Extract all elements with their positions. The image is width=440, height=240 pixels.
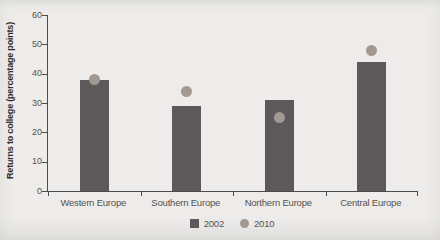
y-tick-label-10: 10 xyxy=(16,157,42,166)
x-category-label-central-europe: Central Europe xyxy=(325,197,418,209)
x-tick-mark-1 xyxy=(141,192,142,196)
x-category-label-southern-europe: Southern Europe xyxy=(140,197,233,209)
x-category-label-northern-europe: Northern Europe xyxy=(232,197,325,209)
legend-item-2010: 2010 xyxy=(240,218,274,229)
y-tick-label-40: 40 xyxy=(16,69,42,78)
y-tick-mark-0 xyxy=(42,191,47,192)
bar-2002-central-europe xyxy=(357,62,386,191)
x-tick-mark-3 xyxy=(326,192,327,196)
legend-label-2002: 2002 xyxy=(204,218,224,229)
y-tick-mark-60 xyxy=(42,15,47,16)
bar-2002-southern-europe xyxy=(172,106,201,191)
legend-circle-swatch-2010 xyxy=(240,219,249,228)
legend-label-2010: 2010 xyxy=(254,218,274,229)
x-category-label-western-europe: Western Europe xyxy=(47,197,140,209)
dot-2010-northern-europe xyxy=(274,112,285,123)
y-tick-mark-20 xyxy=(42,132,47,133)
y-tick-label-30: 30 xyxy=(16,99,42,108)
y-tick-label-60: 60 xyxy=(16,11,42,20)
y-tick-mark-50 xyxy=(42,44,47,45)
x-axis-category-labels: Western EuropeSouthern EuropeNorthern Eu… xyxy=(47,197,417,209)
plot-area: 0102030405060 xyxy=(47,15,418,192)
dot-2010-southern-europe xyxy=(181,86,192,97)
y-tick-mark-40 xyxy=(42,74,47,75)
y-tick-label-0: 0 xyxy=(16,187,42,196)
y-tick-mark-10 xyxy=(42,162,47,163)
y-tick-label-50: 50 xyxy=(16,40,42,49)
y-tick-mark-30 xyxy=(42,103,47,104)
legend-square-swatch-2002 xyxy=(190,219,199,228)
dot-2010-central-europe xyxy=(366,45,377,56)
x-tick-mark-4 xyxy=(417,192,418,196)
returns-to-college-chart: Returns to college (percentage points) 0… xyxy=(0,0,440,240)
legend: 20022010 xyxy=(47,218,417,229)
bar-2002-western-europe xyxy=(80,80,109,191)
legend-item-2002: 2002 xyxy=(190,218,224,229)
x-tick-mark-0 xyxy=(48,192,49,196)
scanned-figure-page: Returns to college (percentage points) 0… xyxy=(0,0,440,240)
dot-2010-western-europe xyxy=(89,74,100,85)
y-tick-label-20: 20 xyxy=(16,128,42,137)
x-tick-mark-2 xyxy=(233,192,234,196)
